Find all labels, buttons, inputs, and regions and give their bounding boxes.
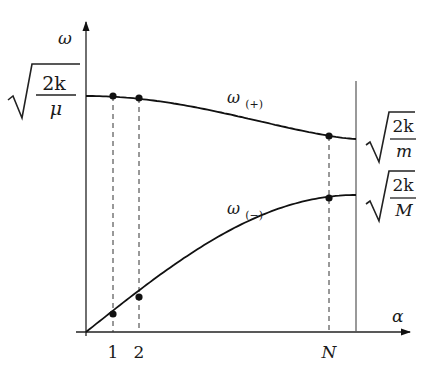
svg-text:2k: 2k [392, 116, 414, 136]
dispersion-diagram: ω α 1 2 N ω (+) ω (−) 2k μ 2k m 2k M [0, 0, 441, 375]
lower-branch-curve [86, 195, 356, 332]
level-upper-end-label: 2k m [366, 112, 416, 162]
svg-text:2k: 2k [42, 72, 66, 94]
svg-text:m: m [396, 141, 412, 161]
svg-text:M: M [394, 200, 413, 220]
upper-point-1 [109, 92, 116, 99]
x-tick-1: 1 [108, 342, 119, 362]
svg-text:μ: μ [50, 97, 62, 119]
svg-text:2k: 2k [392, 175, 414, 195]
lower-point-1 [109, 310, 116, 317]
upper-point-2 [135, 94, 142, 101]
x-tick-2: 2 [134, 342, 145, 362]
level-lower-end-label: 2k M [366, 171, 416, 221]
level-top-label: 2k μ [8, 64, 80, 119]
x-tick-N: N [321, 342, 338, 362]
upper-branch-curve [86, 96, 356, 139]
upper-point-N [325, 132, 332, 139]
upper-branch-label: ω (+) [227, 88, 263, 111]
lower-point-2 [135, 293, 142, 300]
lower-branch-label: ω (−) [227, 199, 263, 222]
lower-point-N [325, 194, 332, 201]
y-axis-label: ω [58, 28, 72, 48]
x-axis-label: α [392, 306, 404, 326]
